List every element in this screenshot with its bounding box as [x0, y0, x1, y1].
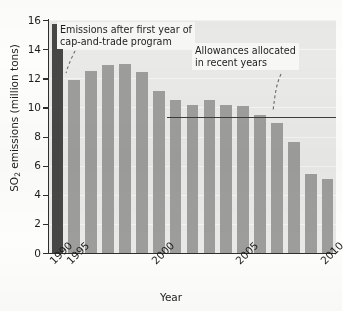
y-tick-label: 4	[0, 189, 41, 199]
y-axis-title-subscript: 2	[13, 172, 22, 177]
bar-2004	[220, 105, 232, 254]
bar-2006	[254, 115, 266, 253]
bar-1995	[68, 80, 80, 253]
bar-1996	[85, 71, 97, 253]
bar-1998	[119, 64, 131, 253]
bar-2002	[187, 105, 199, 254]
bar-2007	[271, 123, 283, 253]
annotation-allowances: Allowances allocated in recent years	[192, 43, 299, 70]
y-tick-label: 16	[0, 15, 41, 25]
bar-2001	[170, 100, 182, 253]
bar-1999	[136, 72, 148, 253]
bar-2005	[237, 106, 249, 253]
bar-2008	[288, 142, 300, 253]
y-tick-label: 6	[0, 160, 41, 170]
annotation-emissions: Emissions after first year of cap-and-tr…	[57, 22, 195, 49]
y-tick-label: 14	[0, 44, 41, 54]
bar-2009	[305, 174, 317, 253]
x-axis-title: Year	[0, 291, 342, 303]
y-tick-label: 2	[0, 218, 41, 228]
bar-2003	[204, 100, 216, 253]
y-tick-label: 12	[0, 73, 41, 83]
y-tick-label: 10	[0, 102, 41, 112]
bar-1990	[52, 24, 64, 253]
y-axis-line	[48, 19, 49, 254]
gridline	[49, 20, 336, 21]
allowance-reference-line	[167, 117, 336, 119]
y-tick-label: 8	[0, 131, 41, 141]
y-tick-label: 0	[0, 248, 41, 258]
bar-1997	[102, 65, 114, 253]
x-axis-line	[48, 253, 336, 254]
bar-2000	[153, 91, 165, 253]
bar-2010	[322, 179, 334, 253]
